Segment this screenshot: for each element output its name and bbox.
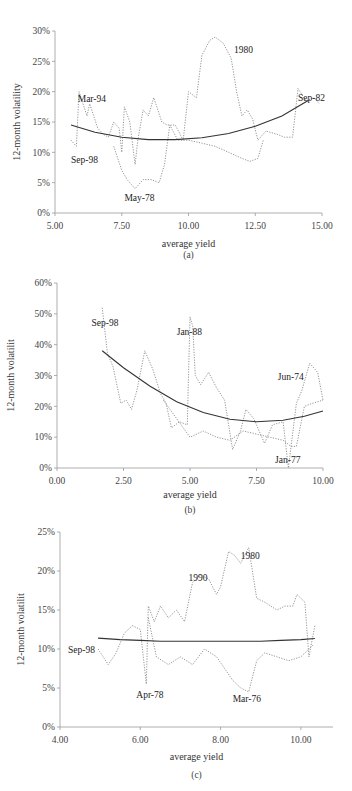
data-annotation-label: Mar-76: [233, 694, 262, 704]
x-axis-title: average yield: [170, 751, 224, 762]
data-annotation-label: Mar-94: [78, 94, 107, 104]
x-tick-label: 12.50: [245, 221, 267, 231]
fitted-curve-line: [98, 638, 315, 641]
x-axis-title: average yield: [162, 238, 216, 249]
y-axis-title: 12-month volatilit: [5, 339, 16, 412]
y-tick-label: 5%: [37, 178, 50, 188]
x-tick-label: 5.00: [182, 476, 199, 486]
y-tick-label: 5%: [42, 683, 55, 693]
chart-a-svg: 0%5%10%15%20%25%30%5.007.5010.0012.5015.…: [0, 0, 352, 260]
data-annotation-label: 1980: [234, 45, 253, 55]
data-annotation-label: 1990: [188, 573, 207, 583]
x-tick-label: 4.00: [52, 735, 69, 745]
x-tick-label: 7.50: [113, 221, 130, 231]
y-tick-label: 0%: [37, 208, 50, 218]
x-tick-label: 0.00: [49, 476, 66, 486]
y-tick-label: 10%: [38, 644, 56, 654]
x-tick-label: 10.00: [178, 221, 200, 231]
x-tick-label: 15.00: [311, 221, 333, 231]
observed-series-line: [98, 548, 315, 685]
chart-caption: (b): [184, 505, 195, 516]
x-tick-label: 7.50: [248, 476, 265, 486]
x-tick-label: 5.00: [47, 221, 64, 231]
y-tick-label: 20%: [35, 402, 53, 412]
chart-caption: (c): [191, 770, 202, 781]
y-tick-label: 0%: [39, 463, 52, 473]
data-annotation-label: Sep-98: [68, 645, 95, 655]
y-tick-label: 30%: [35, 371, 53, 381]
data-annotation-label: Jan-88: [177, 327, 203, 337]
x-tick-label: 8.00: [212, 735, 229, 745]
data-annotation-label: May-78: [124, 193, 154, 203]
y-tick-label: 60%: [35, 278, 53, 288]
y-axis-title: 12-month volatilit: [15, 593, 26, 666]
y-tick-label: 25%: [33, 57, 51, 67]
y-tick-label: 25%: [38, 527, 56, 537]
observed-series-line: [102, 308, 323, 468]
y-tick-label: 30%: [33, 26, 51, 36]
data-annotation-label: 1980: [241, 551, 260, 561]
x-tick-label: 10.00: [312, 476, 334, 486]
chart-caption: (a): [183, 250, 194, 260]
y-axis-title: 12-month volatility: [11, 83, 22, 161]
data-annotation-label: Jun-74: [278, 372, 304, 382]
y-tick-label: 0%: [42, 722, 55, 732]
observed-series-line: [114, 125, 264, 189]
y-tick-label: 15%: [33, 117, 51, 127]
observed-series-line: [163, 400, 323, 446]
y-tick-label: 20%: [33, 87, 51, 97]
chart-b-svg: 0%10%20%30%40%50%60%0.002.505.007.5010.0…: [0, 260, 352, 522]
fitted-curve-line: [71, 100, 309, 139]
x-tick-label: 2.50: [115, 476, 132, 486]
data-annotation-label: Apr-78: [136, 690, 163, 700]
x-tick-label: 6.00: [132, 735, 149, 745]
y-tick-label: 50%: [35, 309, 53, 319]
x-axis-title: average yield: [163, 489, 217, 500]
fitted-curve-line: [102, 351, 323, 422]
y-tick-label: 20%: [38, 566, 56, 576]
y-tick-label: 10%: [35, 432, 53, 442]
chart-panel-b: 0%10%20%30%40%50%60%0.002.505.007.5010.0…: [0, 260, 352, 522]
chart-c-svg: 0%5%10%15%20%25%4.006.008.0010.00average…: [0, 522, 352, 791]
data-annotation-label: Jan-77: [275, 455, 301, 465]
y-tick-label: 40%: [35, 340, 53, 350]
chart-panel-a: 0%5%10%15%20%25%30%5.007.5010.0012.5015.…: [0, 0, 352, 260]
observed-series-line: [71, 37, 319, 164]
data-annotation-label: Sep-98: [92, 318, 119, 328]
data-annotation-label: Sep-82: [298, 93, 325, 103]
data-annotation-label: Sep-98: [71, 155, 98, 165]
observed-series-line: [148, 618, 313, 692]
y-tick-label: 15%: [38, 605, 56, 615]
chart-panel-c: 0%5%10%15%20%25%4.006.008.0010.00average…: [0, 522, 352, 791]
y-tick-label: 10%: [33, 148, 51, 158]
x-tick-label: 10.00: [290, 735, 312, 745]
